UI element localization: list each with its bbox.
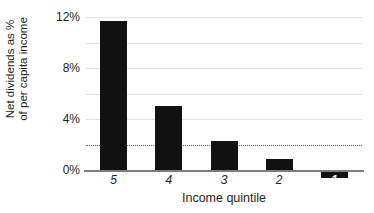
- x-axis-title: Income quintile: [86, 191, 362, 205]
- bar: [100, 21, 127, 170]
- gridline: [86, 68, 362, 69]
- gridline: [86, 17, 362, 18]
- x-tick-label: 4: [149, 173, 189, 187]
- x-axis-line: [84, 170, 364, 172]
- gridline: [86, 43, 362, 44]
- y-tick-label: 0%: [2, 163, 80, 177]
- bar: [211, 141, 238, 170]
- bar-chart: Net dividends as % of per capita income …: [0, 0, 374, 213]
- y-tick-label: 8%: [2, 61, 80, 75]
- y-tick-label: 12%: [2, 10, 80, 24]
- x-tick-label: 5: [94, 173, 134, 187]
- x-tick-label: 3: [204, 173, 244, 187]
- gridline: [86, 119, 362, 120]
- y-tick-label: 4%: [2, 112, 80, 126]
- gridline: [86, 94, 362, 95]
- plot-area: [86, 17, 362, 170]
- x-tick-label: 1: [314, 173, 354, 187]
- bar: [155, 106, 182, 170]
- bar: [266, 159, 293, 170]
- y-axis-ticks: 12%8%4%0%: [0, 0, 80, 213]
- x-tick-label: 2: [259, 173, 299, 187]
